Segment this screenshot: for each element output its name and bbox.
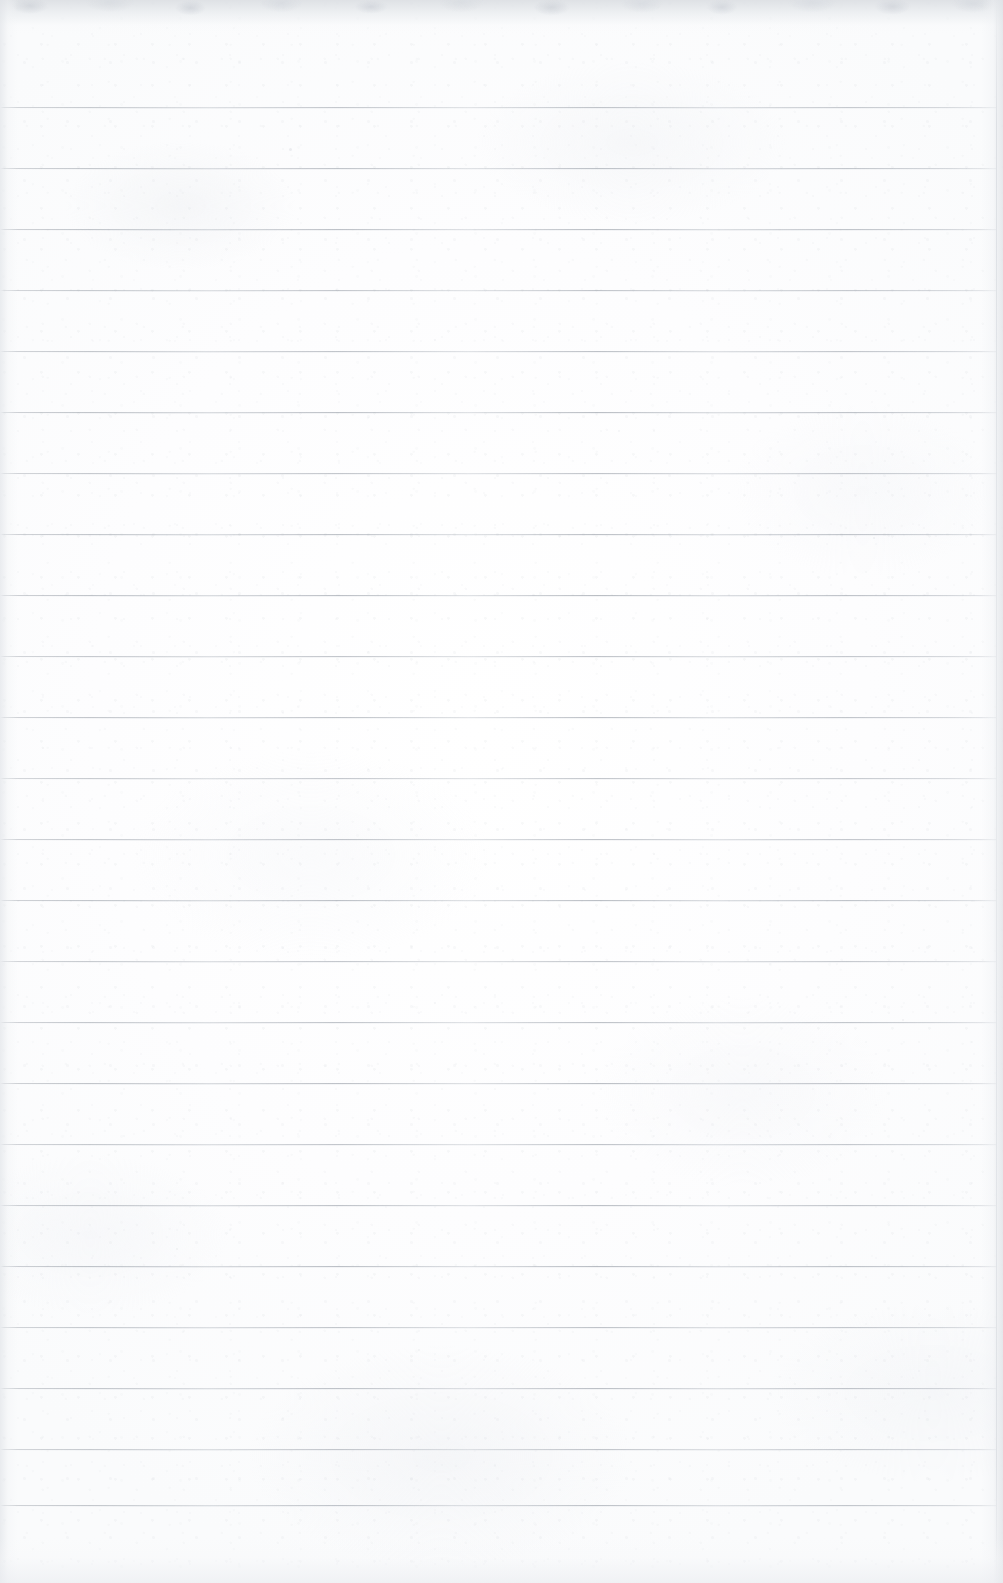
scanned-page: Scan of a blank, wide-ruled sheet of not… [0, 0, 1003, 1583]
paper-surface [0, 0, 1003, 1583]
